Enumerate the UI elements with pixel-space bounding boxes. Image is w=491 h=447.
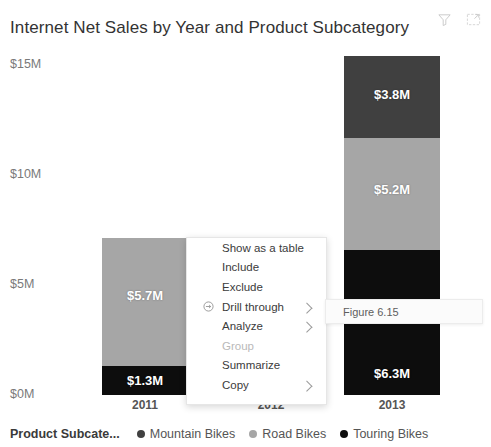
legend-item-label: Mountain Bikes — [150, 427, 235, 441]
menu-item-label: Show as a table — [222, 242, 304, 254]
bar-segment-2011-road-bikes[interactable]: $5.7M — [102, 238, 188, 366]
menu-item-label: Copy — [222, 379, 249, 391]
menu-item-analyze[interactable]: Analyze — [187, 316, 326, 336]
menu-item-include[interactable]: Include — [187, 258, 326, 278]
menu-item-exclude[interactable]: Exclude — [187, 277, 326, 297]
menu-item-label: Analyze — [222, 320, 263, 332]
menu-item-group: Group — [187, 336, 326, 356]
bar-value-label: $5.7M — [102, 288, 188, 303]
y-axis-label-5m: $5M — [10, 277, 34, 291]
bar-segment-2013-mountain-bikes[interactable]: $3.8M — [344, 56, 440, 138]
menu-item-label: Exclude — [222, 281, 263, 293]
menu-item-copy[interactable]: Copy — [187, 375, 326, 395]
legend-item-label: Touring Bikes — [353, 427, 428, 441]
figure-caption-panel: Figure 6.15 — [325, 299, 483, 324]
legend-item-label: Road Bikes — [262, 427, 326, 441]
menu-item-label: Summarize — [222, 359, 280, 371]
bar-2013[interactable]: $3.8M $5.2M $6.3M — [344, 56, 440, 395]
menu-item-label: Drill through — [222, 301, 284, 313]
menu-item-drill-through[interactable]: Drill through — [187, 297, 326, 317]
context-menu[interactable]: Show as a table Include Exclude Drill th… — [186, 237, 327, 405]
drill-through-icon — [203, 301, 214, 312]
legend-items: Mountain Bikes Road Bikes Touring Bikes — [137, 427, 428, 441]
legend-item-touring-bikes[interactable]: Touring Bikes — [340, 427, 428, 441]
visual-header-icons — [437, 12, 481, 27]
chevron-right-icon — [306, 375, 318, 395]
chevron-right-icon — [306, 297, 318, 317]
menu-item-show-as-a-table[interactable]: Show as a table — [187, 238, 326, 258]
chevron-right-icon — [306, 316, 318, 336]
bar-2011[interactable]: $5.7M $1.3M — [102, 238, 188, 395]
legend-swatch-icon — [249, 430, 257, 438]
x-axis-label-2013: 2013 — [344, 398, 440, 412]
bar-value-label: $3.8M — [344, 87, 440, 102]
page-title: Internet Net Sales by Year and Product S… — [10, 18, 409, 38]
y-axis-label-10m: $10M — [10, 167, 41, 181]
legend-title: Product Subcate... — [10, 427, 120, 441]
visual-container: Internet Net Sales by Year and Product S… — [0, 0, 491, 447]
bar-value-label: $1.3M — [102, 373, 188, 388]
clipped-text-strip — [8, 0, 308, 10]
y-axis-label-0m: $0M — [10, 387, 34, 401]
legend-swatch-icon — [340, 430, 348, 438]
bar-value-label: $5.2M — [344, 182, 440, 197]
menu-item-summarize[interactable]: Summarize — [187, 356, 326, 376]
legend-item-mountain-bikes[interactable]: Mountain Bikes — [137, 427, 235, 441]
menu-item-label: Group — [222, 340, 254, 352]
bar-segment-2013-road-bikes[interactable]: $5.2M — [344, 138, 440, 250]
focus-mode-icon[interactable] — [466, 12, 481, 27]
chart-legend: Product Subcate... Mountain Bikes Road B… — [0, 420, 491, 447]
bar-segment-2011-touring-bikes[interactable]: $1.3M — [102, 366, 188, 395]
legend-swatch-icon — [137, 430, 145, 438]
filter-icon[interactable] — [437, 12, 452, 27]
x-axis-label-2011: 2011 — [102, 398, 188, 412]
menu-item-label: Include — [222, 261, 259, 273]
figure-caption: Figure 6.15 — [326, 306, 399, 318]
y-axis-label-15m: $15M — [10, 57, 41, 71]
bar-value-label: $6.3M — [344, 366, 440, 381]
legend-item-road-bikes[interactable]: Road Bikes — [249, 427, 326, 441]
